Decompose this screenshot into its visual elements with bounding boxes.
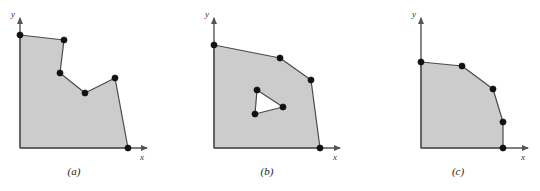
polygon-figure: xy(a)xy(b)xy(c) bbox=[0, 0, 540, 191]
vertex-dot-b-0 bbox=[211, 42, 217, 48]
vertex-dot-c-1 bbox=[459, 63, 465, 69]
y-axis-label-a: y bbox=[10, 9, 15, 19]
panel-a: xy(a) bbox=[10, 9, 147, 178]
panels-group: xy(a)xy(b)xy(c) bbox=[10, 9, 528, 178]
panel-caption-c: (c) bbox=[452, 165, 465, 178]
vertex-dot-a-3 bbox=[82, 90, 88, 96]
vertex-dot-a-5 bbox=[125, 145, 131, 151]
vertex-dot-b-2 bbox=[308, 77, 314, 83]
y-axis-label-c: y bbox=[411, 9, 416, 19]
panel-b: xy(b) bbox=[204, 9, 340, 178]
vertex-dot-c-4 bbox=[500, 145, 506, 151]
x-axis-label-b: x bbox=[332, 152, 337, 162]
vertex-dot-b-3 bbox=[317, 145, 323, 151]
vertex-dot-c-2 bbox=[490, 86, 496, 92]
vertex-dot-a-1 bbox=[61, 37, 67, 43]
vertex-dot-a-2 bbox=[57, 70, 63, 76]
vertex-dot-a-4 bbox=[112, 75, 118, 81]
hole-vertex-dot-b-0-1 bbox=[280, 104, 286, 110]
hole-vertex-dot-b-0-0 bbox=[254, 87, 260, 93]
hole-vertex-dot-b-0-2 bbox=[252, 111, 258, 117]
vertex-dot-b-1 bbox=[277, 55, 283, 61]
x-axis-label-c: x bbox=[520, 152, 525, 162]
vertex-dot-c-3 bbox=[500, 119, 506, 125]
vertex-dot-c-0 bbox=[418, 59, 424, 65]
panel-c: xy(c) bbox=[411, 9, 528, 178]
panel-caption-a: (a) bbox=[68, 165, 81, 178]
x-axis-label-a: x bbox=[139, 152, 144, 162]
vertex-dot-a-0 bbox=[17, 32, 23, 38]
polygon-fill-c bbox=[421, 62, 503, 148]
polygon-fill-a bbox=[20, 35, 128, 148]
y-axis-label-b: y bbox=[204, 9, 209, 19]
panel-caption-b: (b) bbox=[261, 165, 274, 178]
figure-canvas: xy(a)xy(b)xy(c) bbox=[0, 0, 540, 191]
